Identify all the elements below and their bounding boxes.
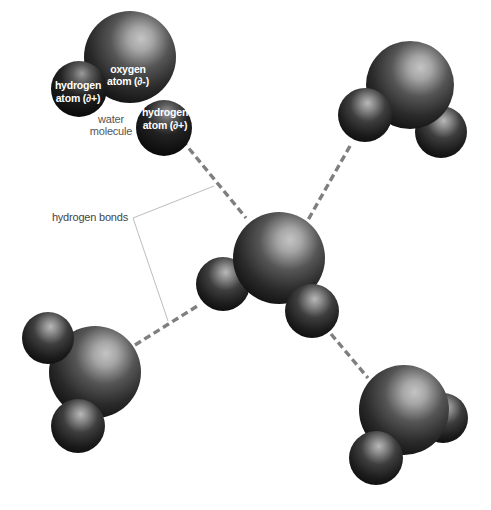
hydrogen-atom <box>51 399 105 453</box>
water-molecule-top-left-labeled: oxygen atom (∂-) hydrogen atom (∂+) hydr… <box>51 11 192 156</box>
hydrogen-atom <box>349 431 403 485</box>
leader-line-lower <box>133 218 168 321</box>
leader-line-upper <box>133 186 214 218</box>
oxygen-atom-label-line1: oxygen <box>110 63 146 75</box>
hydrogen-bond-bottom-left <box>135 305 199 345</box>
hydrogen-bonds-label: hydrogen bonds <box>52 211 129 223</box>
hydrogen-bond-bottom-right <box>331 334 368 378</box>
water-molecule-label-line2: molecule <box>90 125 133 137</box>
hydrogen-atom <box>22 312 74 364</box>
hydrogen-left-label-line2: atom (∂+) <box>56 92 101 104</box>
hydrogen-bond-top-right <box>308 146 350 220</box>
water-hydrogen-bond-diagram: hydrogen bonds oxygen atom (∂-) hydrogen… <box>0 0 491 510</box>
oxygen-atom-label-line2: atom (∂-) <box>107 75 149 87</box>
water-molecule-center <box>196 212 339 338</box>
hydrogen-right-label-line2: atom (∂+) <box>143 119 188 131</box>
hydrogen-right-label-line1: hydrogen <box>142 106 188 118</box>
water-molecule-bottom-left <box>22 312 141 453</box>
hydrogen-bond-top-left <box>182 140 246 218</box>
water-molecule-bottom-right <box>349 365 468 485</box>
hydrogen-atom <box>338 88 392 142</box>
water-molecule-top-right <box>338 41 467 158</box>
water-molecule-label-line1: water <box>97 113 124 125</box>
hydrogen-atom <box>285 284 339 338</box>
hydrogen-left-label-line1: hydrogen <box>55 79 101 91</box>
